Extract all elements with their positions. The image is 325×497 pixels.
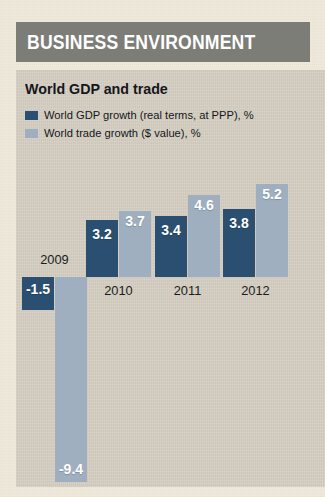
bar-value-2010-gdp: 3.2: [92, 226, 111, 242]
bar-value-2009-trade: -9.4: [59, 461, 83, 477]
bar-2011-trade: 4.6: [188, 195, 220, 277]
x-axis-label-2011: 2011: [157, 283, 219, 298]
bar-value-2009-gdp: -1.5: [26, 281, 50, 297]
bar-2010-trade: 3.7: [119, 211, 151, 277]
bar-2012-trade: 5.2: [256, 184, 288, 277]
bar-2012-gdp: 3.8: [223, 209, 255, 277]
bar-value-2010-trade: 3.7: [125, 213, 144, 229]
section-title: BUSINESS ENVIRONMENT: [27, 31, 255, 54]
chart-panel: World GDP and trade World GDP growth (re…: [16, 70, 325, 487]
section-header-band: BUSINESS ENVIRONMENT: [16, 22, 310, 62]
bar-2009-gdp: -1.5: [22, 277, 54, 310]
x-axis-label-2012: 2012: [225, 283, 287, 298]
bar-2011-gdp: 3.4: [155, 216, 187, 277]
bar-value-2011-gdp: 3.4: [161, 222, 180, 238]
x-axis-label-2009: 2009: [24, 252, 86, 267]
bar-value-2012-gdp: 3.8: [229, 215, 248, 231]
bar-value-2012-trade: 5.2: [262, 186, 281, 202]
x-axis-label-2010: 2010: [88, 283, 150, 298]
bar-2010-gdp: 3.2: [86, 220, 118, 277]
plot-area: -1.5-9.420093.23.720103.44.620113.85.220…: [16, 70, 325, 487]
bar-2009-trade: -9.4: [55, 277, 87, 482]
bar-value-2011-trade: 4.6: [194, 197, 213, 213]
